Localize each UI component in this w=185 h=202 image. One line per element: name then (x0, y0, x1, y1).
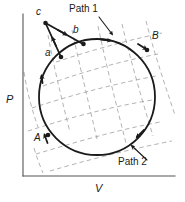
pv-diagram-figure: P V A B a b c Path 1 Path 2 (0, 0, 185, 202)
path1-direction-arrows (53, 30, 67, 46)
state-point-B (145, 48, 150, 53)
y-axis-label: P (6, 94, 13, 105)
state-label-c: c (36, 7, 41, 17)
state-label-a: a (45, 48, 51, 58)
state-label-B: B (152, 31, 159, 41)
state-point-b (81, 42, 86, 47)
annotation-label-path1: Path 1 (69, 4, 98, 14)
x-axis-label: V (95, 183, 102, 194)
state-point-A (46, 133, 51, 138)
state-label-A: A (34, 133, 41, 143)
dashed-adiabat-family (24, 21, 175, 173)
path1-leader (99, 17, 112, 34)
annotation-label-path2: Path 2 (118, 157, 147, 167)
annotation-leaders (99, 17, 147, 160)
state-point-c (43, 21, 48, 26)
state-label-b: b (73, 25, 79, 35)
state-point-a (59, 55, 64, 60)
